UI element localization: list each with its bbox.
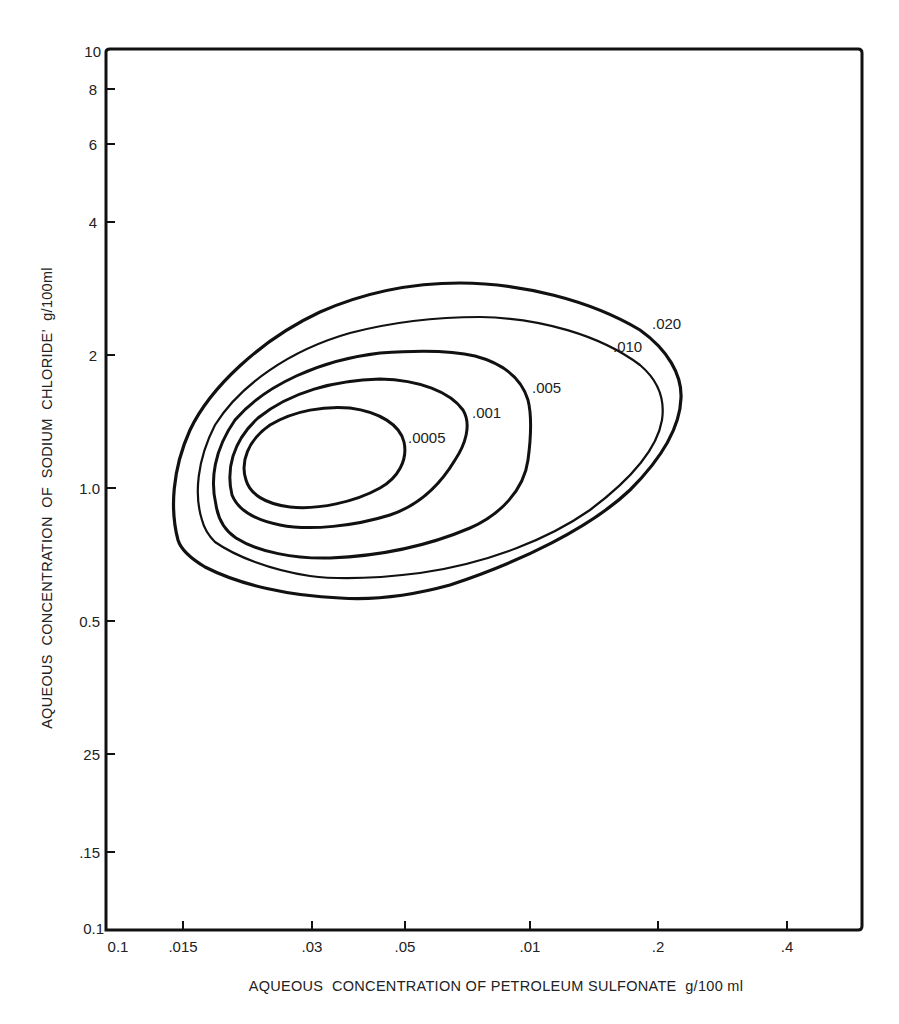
y-tick-labels: 10 8 6 4 2 1.0 0.5 25 .15 0.1	[79, 43, 104, 937]
contour-0005	[244, 408, 405, 508]
x-tick-label: .05	[395, 938, 416, 955]
contour-001	[230, 379, 467, 528]
x-tick-label: .2	[652, 938, 665, 955]
y-tick-label: 4	[89, 214, 97, 231]
contour-label-010: .010	[613, 338, 642, 355]
x-tick-label: .03	[302, 938, 323, 955]
y-tick-label: 8	[89, 81, 97, 98]
x-axis-title: AQUEOUS CONCENTRATION OF PETROLEUM SULFO…	[249, 978, 744, 994]
contour-label-020: .020	[652, 315, 681, 332]
plot-frame	[106, 49, 862, 930]
y-tick-label: 25	[83, 746, 100, 763]
y-tick-label: .15	[79, 844, 100, 861]
y-tick-label: 0.1	[83, 920, 104, 937]
y-tick-label: 0.5	[79, 613, 100, 630]
x-tick-label: .4	[781, 938, 794, 955]
x-tick-labels: 0.1 .015 .03 .05 .01 .2 .4	[108, 938, 794, 955]
contour-label-005: .005	[532, 379, 561, 396]
y-axis-title: AQUEOUS CONCENTRATION OF SODIUM CHLORIDE…	[39, 267, 55, 729]
x-tick-label: 0.1	[108, 938, 129, 955]
contour-label-001: .001	[472, 404, 501, 421]
contour-010	[198, 317, 663, 578]
y-tick-label: 10	[84, 43, 101, 60]
y-tick-label: 2	[89, 347, 97, 364]
y-tick-label: 1.0	[79, 480, 100, 497]
x-tick-label: .01	[520, 938, 541, 955]
contour-chart: 10 8 6 4 2 1.0 0.5 25 .15 0.1 0.1 .015 .…	[0, 0, 899, 1024]
contour-005	[213, 351, 530, 558]
y-tick-label: 6	[89, 136, 97, 153]
contour-labels: .020 .010 .005 .001 .0005	[408, 315, 681, 446]
x-tick-label: .015	[168, 938, 197, 955]
contour-label-0005: .0005	[408, 429, 446, 446]
